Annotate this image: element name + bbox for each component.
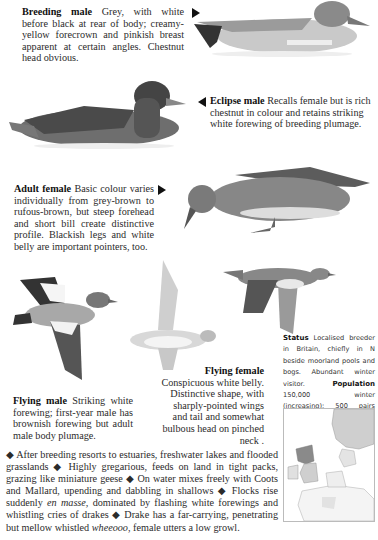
caption-eclipse-male: Eclipse male Recalls female but is rich … — [210, 95, 372, 130]
note-item: , female utters a low growl. — [128, 522, 240, 533]
note-italic: en masse, — [47, 497, 88, 508]
caption-title: Breeding male — [22, 6, 92, 17]
bullet-icon: ◆ — [53, 461, 63, 472]
bullet-icon: ◆ — [6, 449, 14, 460]
flying-male-duck-illustration — [10, 275, 120, 385]
note-italic: wheeooo — [92, 522, 128, 533]
caption-breeding-male: Breeding male Grey, with white before bl… — [22, 6, 184, 64]
caption-text: Conspicuous white belly. Distinctive sha… — [161, 377, 264, 446]
caption-title: Flying female — [205, 365, 264, 376]
pointer-right-icon — [158, 185, 166, 195]
bullet-icon: ◆ — [112, 509, 121, 520]
behaviour-notes: ◆ After breeding resorts to estuaries, f… — [6, 449, 278, 534]
caption-title: Eclipse male — [210, 95, 265, 106]
bullet-icon: ◆ — [126, 473, 134, 484]
caption-title: Adult female — [14, 183, 71, 194]
pointer-left-icon — [198, 97, 206, 107]
flying-female-right-illustration — [218, 258, 338, 338]
caption-flying-female: Flying female Conspicuous white belly. D… — [158, 365, 264, 446]
population-label: Population — [332, 380, 375, 388]
caption-title: Flying male — [13, 395, 67, 406]
bullet-icon: ◆ — [218, 485, 228, 496]
flying-female-center-illustration — [118, 260, 218, 370]
status-label: Status — [283, 334, 309, 342]
breeding-male-duck-illustration — [192, 0, 378, 62]
distribution-map — [283, 408, 375, 522]
caption-flying-male: Flying male Striking white forewing; fir… — [13, 395, 133, 441]
caption-adult-female: Adult female Basic colour varies individ… — [14, 183, 154, 253]
map-europe-icon — [284, 409, 374, 521]
adult-female-duck-illustration — [180, 155, 378, 237]
eclipse-male-duck-illustration — [4, 78, 190, 150]
